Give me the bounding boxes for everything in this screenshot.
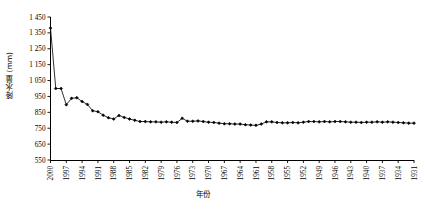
x-tick-label: 1991	[95, 166, 103, 181]
x-tick-label: 1961	[253, 166, 261, 181]
data-point	[123, 116, 126, 119]
data-point	[149, 120, 152, 123]
data-point	[233, 123, 236, 126]
data-point	[270, 120, 273, 123]
y-tick-label: 1 150	[29, 61, 46, 69]
x-axis-tick-labels: 2000199719941991198819851982197919761973…	[47, 166, 419, 181]
data-point	[323, 120, 326, 123]
data-point	[191, 120, 194, 123]
x-tick-label: 1970	[205, 166, 213, 181]
data-point	[391, 121, 394, 124]
data-point	[381, 121, 384, 124]
data-point	[207, 121, 210, 124]
x-tick-label: 1949	[316, 166, 324, 181]
precipitation-line-chart: 5506507508509501 0501 1501 2501 3501 450…	[0, 0, 425, 211]
data-point	[349, 121, 352, 124]
data-point	[286, 121, 289, 124]
data-point	[54, 87, 57, 90]
data-point	[307, 120, 310, 123]
data-point	[402, 121, 405, 124]
y-tick-label: 1 350	[29, 29, 46, 37]
data-point	[197, 119, 200, 122]
x-tick-label: 1976	[174, 166, 182, 181]
data-point	[370, 121, 373, 124]
x-tick-label: 1952	[300, 166, 308, 181]
x-tick-label: 1931	[411, 166, 419, 181]
y-axis-title: 降水量 (mm)	[4, 52, 16, 99]
data-point	[291, 121, 294, 124]
data-point	[260, 123, 263, 126]
x-tick-label: 1997	[63, 166, 71, 181]
x-tick-label: 1982	[142, 166, 150, 181]
y-tick-label: 1 050	[29, 77, 46, 85]
x-tick-label: 1934	[395, 166, 403, 181]
data-point	[344, 120, 347, 123]
data-point	[244, 123, 247, 126]
data-point	[228, 122, 231, 125]
x-tick-label: 1937	[379, 166, 387, 181]
data-point	[223, 122, 226, 125]
data-point	[144, 120, 147, 123]
data-point	[407, 122, 410, 125]
data-point	[281, 121, 284, 124]
data-point	[139, 120, 142, 123]
data-point	[397, 121, 400, 124]
data-point	[212, 121, 215, 124]
data-series-markers	[49, 27, 416, 127]
data-point	[165, 120, 168, 123]
x-tick-label: 1979	[158, 166, 166, 181]
data-point	[312, 120, 315, 123]
x-axis-title: 年份	[196, 188, 210, 199]
x-tick-label: 1964	[237, 166, 245, 181]
data-point	[49, 27, 52, 30]
data-point	[276, 121, 279, 124]
x-tick-label: 1985	[126, 166, 134, 181]
x-tick-label: 1946	[332, 166, 340, 181]
data-point	[355, 121, 358, 124]
y-axis-tick-labels: 5506507508509501 0501 1501 2501 3501 450	[29, 14, 46, 165]
y-tick-label: 950	[35, 93, 46, 101]
data-point	[239, 123, 242, 126]
data-point	[339, 120, 342, 123]
y-tick-label: 850	[35, 109, 46, 117]
x-tick-label: 1988	[110, 166, 118, 181]
data-point	[413, 122, 416, 125]
data-point	[386, 120, 389, 123]
y-tick-label: 1 250	[29, 45, 46, 53]
x-tick-label: 2000	[47, 166, 55, 181]
y-tick-label: 1 450	[29, 14, 46, 22]
data-series-line	[51, 28, 415, 125]
x-tick-label: 1958	[268, 166, 276, 181]
x-tick-label: 1955	[284, 166, 292, 181]
data-point	[202, 120, 205, 123]
data-point	[170, 121, 173, 124]
data-point	[160, 121, 163, 124]
data-point	[333, 120, 336, 123]
x-tick-label: 1973	[189, 166, 197, 181]
data-point	[318, 120, 321, 123]
data-point	[249, 124, 252, 127]
data-point	[328, 120, 331, 123]
data-point	[60, 87, 63, 90]
chart-canvas: 5506507508509501 0501 1501 2501 3501 450…	[0, 0, 425, 211]
data-point	[254, 124, 257, 127]
y-tick-label: 650	[35, 141, 46, 149]
data-point	[365, 121, 368, 124]
data-point	[297, 121, 300, 124]
data-point	[107, 116, 110, 119]
x-tick-label: 1940	[363, 166, 371, 181]
y-tick-label: 550	[35, 157, 46, 165]
data-point	[360, 121, 363, 124]
x-tick-label: 1967	[221, 166, 229, 181]
y-tick-label: 750	[35, 125, 46, 133]
data-point	[218, 122, 221, 125]
data-point	[265, 120, 268, 123]
x-tick-label: 1943	[347, 166, 355, 181]
data-point	[133, 119, 136, 122]
x-tick-label: 1994	[79, 166, 87, 181]
data-point	[376, 120, 379, 123]
data-point	[154, 120, 157, 123]
data-point	[128, 118, 131, 121]
data-point	[302, 121, 305, 124]
